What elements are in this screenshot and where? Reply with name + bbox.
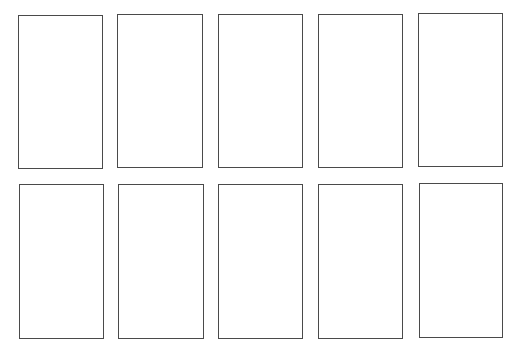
card-r2-c4: [318, 184, 403, 339]
card-r2-c5: [419, 183, 503, 338]
card-r1-c1: [18, 15, 103, 169]
card-r2-c1: [19, 184, 104, 339]
card-r1-c5: [418, 13, 503, 167]
card-r1-c3: [218, 14, 303, 168]
card-r1-c4: [318, 14, 403, 168]
card-grid: [0, 0, 530, 348]
card-r1-c2: [117, 14, 203, 168]
card-r2-c2: [118, 184, 204, 339]
card-r2-c3: [218, 184, 303, 339]
